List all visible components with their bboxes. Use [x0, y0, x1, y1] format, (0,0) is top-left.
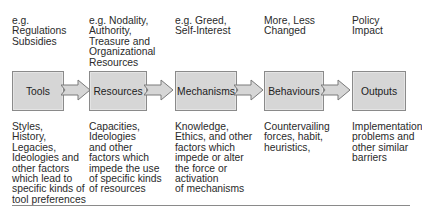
tools-examples: e.g. Regulations Subsidies — [12, 16, 66, 47]
bottom-rule-divider — [12, 205, 410, 206]
behaviours-examples: More, Less Changed — [264, 16, 315, 37]
arrow-right-icon — [234, 79, 264, 101]
mechanisms-factors: Knowledge, Ethics, and other factors whi… — [175, 122, 252, 195]
resources-factors: Capacities, Ideologies and other factors… — [89, 122, 162, 195]
mechanisms-examples: e.g. Greed, Self-Interest — [175, 16, 231, 37]
arrow-right-icon — [61, 79, 91, 101]
mechanisms-label: Mechanisms — [177, 86, 235, 97]
arrow-right-icon — [321, 79, 351, 101]
mechanisms-box: Mechanisms — [175, 71, 237, 111]
resources-examples: e.g. Nodality, Authority, Treasure and O… — [89, 16, 155, 68]
outputs-examples: Policy Impact — [352, 16, 383, 37]
behaviours-factors: Countervailing forces, habit, heuristics… — [264, 122, 330, 153]
tools-box: Tools — [12, 71, 64, 111]
outputs-box: Outputs — [352, 71, 406, 111]
behaviours-label: Behaviours — [268, 86, 320, 97]
behaviours-box: Behaviours — [264, 71, 324, 111]
resources-label: Resources — [93, 86, 142, 97]
resources-box: Resources — [89, 71, 147, 111]
arrow-right-icon — [144, 79, 174, 101]
tools-factors: Styles, History, Legacies, Ideologies an… — [12, 122, 86, 205]
outputs-label: Outputs — [361, 86, 397, 97]
tools-label: Tools — [26, 86, 50, 97]
outputs-factors: Implementation problems and other simila… — [352, 122, 422, 164]
